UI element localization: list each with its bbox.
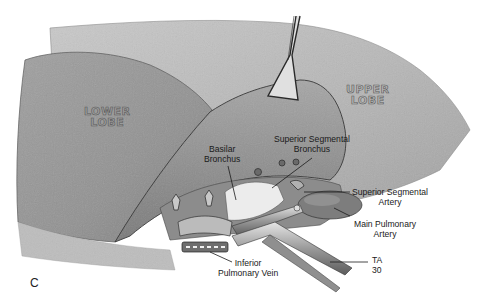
upper-lobe-label: UPPER LOBE [346,84,390,106]
lower-lobe-label: LOWER LOBE [84,106,131,128]
panel-letter: C [30,276,39,290]
label-superior-segmental-bronchus: Superior Segmental Bronchus [274,134,350,154]
label-superior-segmental-artery: Superior Segmental Artery [352,187,428,207]
label-main-pulmonary-artery: Main Pulmonary Artery [354,219,416,239]
label-basilar-bronchus: Basilar Bronchus [204,144,240,164]
label-ta30: TA 30 [372,255,382,275]
label-inferior-pulmonary-vein: Inferior Pulmonary Vein [218,258,278,278]
